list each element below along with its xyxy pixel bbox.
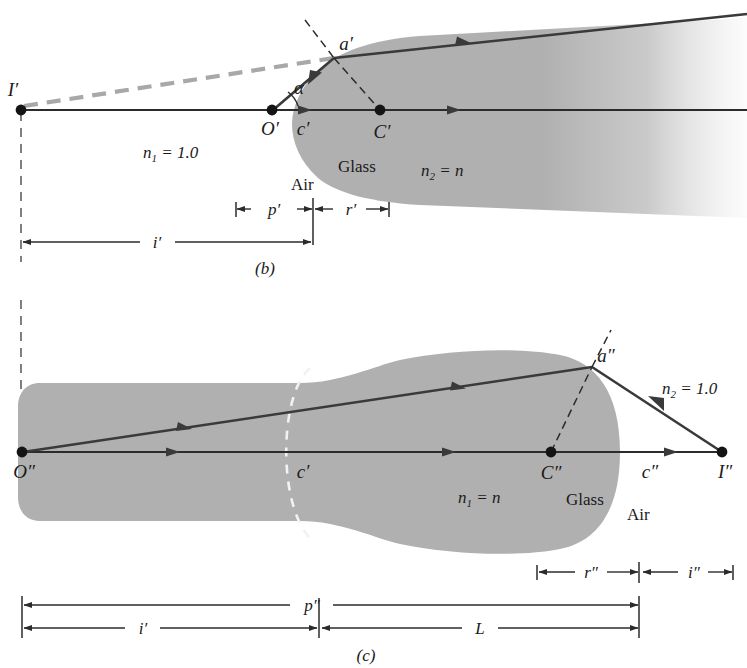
dim-label-r-prime: r′ xyxy=(346,200,357,219)
material-label-glass-b: Glass xyxy=(338,157,376,176)
dim-label-i-prime-b: i′ xyxy=(153,233,162,252)
dim-label-p-prime: p′ xyxy=(267,200,281,219)
dimension-i-double: i″ xyxy=(643,563,733,582)
point-label-C-prime: C′ xyxy=(374,121,392,142)
point-dot-I-double xyxy=(717,447,728,458)
point-label-a-prime: a′ xyxy=(339,33,354,54)
point-label-O-double: O″ xyxy=(13,461,36,482)
figure-canvas: α I′ O′ a′ C′ c′ n1 = 1.0 n2 = n Air Gla… xyxy=(0,0,747,668)
glass-rod-b xyxy=(292,18,747,218)
panel-c: O″ a″ C″ c″ I″ c′ n1 = n n2 = 1.0 Glass … xyxy=(13,300,733,665)
point-label-I-double: I″ xyxy=(717,461,733,482)
dim-label-i-prime-c: i′ xyxy=(139,619,148,638)
dim-label-r-double: r″ xyxy=(584,563,599,582)
point-label-c-double: c″ xyxy=(642,461,659,482)
point-label-I-prime: I′ xyxy=(7,79,19,100)
point-label-C-double: C″ xyxy=(541,462,563,483)
point-dot-C-double xyxy=(546,447,557,458)
material-label-glass-c: Glass xyxy=(566,490,604,509)
angle-label-alpha: α xyxy=(294,77,305,98)
point-dot-O-double xyxy=(17,447,28,458)
point-dot-C-prime xyxy=(375,105,386,116)
point-label-c-prime-c: c′ xyxy=(297,461,310,482)
index-label-n1-b: n1 = 1.0 xyxy=(143,143,199,164)
dimension-i-prime-c: i′ xyxy=(24,598,319,638)
panel-caption-c: (c) xyxy=(357,646,376,665)
axis-ray-arrow-c-3 xyxy=(664,448,678,457)
index-label-n1-c: n1 = n xyxy=(458,488,500,509)
dimension-r-double: r″ xyxy=(537,562,639,583)
normal-extension-b xyxy=(305,20,334,58)
index-label-n2-c: n2 = 1.0 xyxy=(662,379,718,400)
material-label-air-b: Air xyxy=(291,175,314,194)
panel-caption-b: (b) xyxy=(255,259,275,278)
point-dot-I-prime xyxy=(16,105,27,116)
dim-label-p-double: p″ xyxy=(303,596,321,615)
dimension-L: L xyxy=(322,619,638,638)
point-label-a-double: a″ xyxy=(597,345,616,366)
glass-region-b xyxy=(292,18,747,218)
dimension-p-prime: p′ xyxy=(236,198,313,245)
dim-label-L: L xyxy=(474,619,484,638)
optics-figure: α I′ O′ a′ C′ c′ n1 = 1.0 n2 = n Air Gla… xyxy=(0,0,747,668)
point-label-O-prime: O′ xyxy=(261,118,280,139)
dim-label-i-double: i″ xyxy=(688,563,701,582)
panel-b: α I′ O′ a′ C′ c′ n1 = 1.0 n2 = n Air Gla… xyxy=(7,14,747,278)
material-label-air-c: Air xyxy=(627,505,650,524)
dimension-p-double: p″ xyxy=(22,596,639,638)
index-label-n2-b: n2 = n xyxy=(421,161,463,182)
point-label-c-prime: c′ xyxy=(297,118,310,139)
point-dot-O-prime xyxy=(267,105,278,116)
dimension-r-prime: r′ xyxy=(315,200,389,219)
dimension-i-prime-b: i′ xyxy=(23,233,311,252)
